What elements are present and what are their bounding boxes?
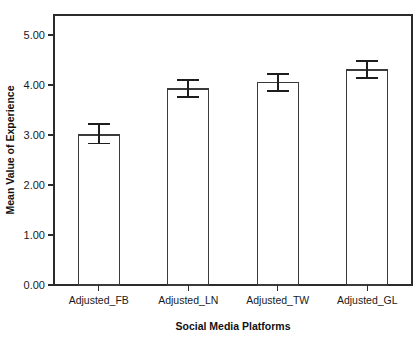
x-axis-title: Social Media Platforms bbox=[176, 320, 291, 332]
x-tick-label: Adjusted_TW bbox=[246, 294, 309, 306]
bar bbox=[168, 89, 209, 285]
y-tick-label: 3.00 bbox=[24, 129, 45, 141]
y-axis-title: Mean Value of Experience bbox=[4, 85, 16, 214]
error-bars-group bbox=[88, 61, 379, 144]
y-tick-label: 2.00 bbox=[24, 179, 45, 191]
y-tick-label: 1.00 bbox=[24, 229, 45, 241]
bar bbox=[78, 135, 119, 285]
chart-canvas: 0.001.002.003.004.005.00 Adjusted_FBAdju… bbox=[0, 0, 416, 340]
y-tick-label: 5.00 bbox=[24, 29, 45, 41]
y-tick-label: 4.00 bbox=[24, 79, 45, 91]
x-tick-label: Adjusted_FB bbox=[69, 294, 129, 306]
y-tick-label: 0.00 bbox=[24, 279, 45, 291]
x-tick-label: Adjusted_LN bbox=[158, 294, 218, 306]
x-axis-tick-labels: Adjusted_FBAdjusted_LNAdjusted_TWAdjuste… bbox=[69, 294, 398, 306]
y-axis-ticks bbox=[48, 35, 54, 285]
x-tick-label: Adjusted_GL bbox=[337, 294, 398, 306]
bars-group bbox=[78, 70, 388, 285]
x-axis-ticks bbox=[99, 285, 368, 291]
y-axis-tick-labels: 0.001.002.003.004.005.00 bbox=[24, 29, 45, 291]
bar-chart-figure: 0.001.002.003.004.005.00 Adjusted_FBAdju… bbox=[0, 0, 416, 340]
bar bbox=[257, 83, 298, 286]
bar bbox=[347, 70, 388, 285]
